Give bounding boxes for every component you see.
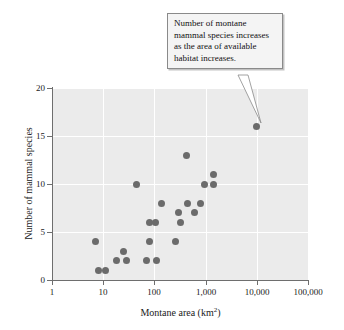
data-point bbox=[133, 181, 140, 188]
y-tick-label-0: 0 bbox=[41, 276, 46, 285]
data-point bbox=[210, 171, 217, 178]
data-point bbox=[253, 123, 260, 130]
data-point bbox=[95, 267, 102, 274]
annotation-line-4: habitat increases. bbox=[174, 53, 277, 65]
annotation-callout-box: Number of montane mammal species increas… bbox=[167, 13, 283, 69]
scatter-chart-figure: 20 15 10 5 0 1 10 100 1,000 10,000 100,0… bbox=[0, 0, 344, 330]
data-point bbox=[152, 219, 159, 226]
data-point bbox=[153, 257, 160, 264]
annotation-line-1: Number of montane bbox=[174, 18, 277, 30]
y-tick-5 bbox=[47, 232, 52, 233]
x-tick-1 bbox=[52, 280, 53, 285]
plot-area bbox=[52, 88, 308, 280]
data-point bbox=[184, 200, 191, 207]
x-tick-label-100: 100 bbox=[147, 288, 161, 297]
data-point bbox=[175, 209, 182, 216]
y-tick-20 bbox=[47, 88, 52, 89]
y-tick-label-10: 10 bbox=[36, 180, 45, 189]
x-tick-10 bbox=[103, 280, 104, 285]
y-tick-label-5: 5 bbox=[41, 228, 46, 237]
data-point bbox=[102, 267, 109, 274]
gridline-y-20 bbox=[52, 88, 308, 89]
y-tick-15 bbox=[47, 136, 52, 137]
x-tick-label-1000: 1,000 bbox=[196, 288, 216, 297]
y-axis-title: Number of mammal species bbox=[23, 109, 34, 259]
x-tick-label-100000: 100,000 bbox=[293, 288, 322, 297]
data-point bbox=[92, 238, 99, 245]
data-point bbox=[113, 257, 120, 264]
x-axis-title-prefix: Montane area (km bbox=[140, 307, 213, 318]
x-axis-title-suffix: ) bbox=[217, 307, 220, 318]
x-tick-1000 bbox=[206, 280, 207, 285]
data-point bbox=[146, 238, 153, 245]
data-point bbox=[120, 248, 127, 255]
gridline-x-10000 bbox=[257, 88, 258, 280]
y-tick-label-15: 15 bbox=[36, 132, 45, 141]
data-point bbox=[191, 209, 198, 216]
y-tick-10 bbox=[47, 184, 52, 185]
data-point bbox=[201, 181, 208, 188]
y-axis-line bbox=[52, 87, 53, 281]
x-tick-label-1: 1 bbox=[50, 288, 55, 297]
data-point bbox=[197, 200, 204, 207]
x-tick-100 bbox=[154, 280, 155, 285]
data-point bbox=[210, 181, 217, 188]
data-point bbox=[172, 238, 179, 245]
x-tick-10000 bbox=[257, 280, 258, 285]
annotation-line-2: mammal species increases bbox=[174, 30, 277, 42]
data-point bbox=[123, 257, 130, 264]
gridline-x-10 bbox=[103, 88, 104, 280]
gridline-y-5 bbox=[52, 232, 308, 233]
x-axis-line bbox=[52, 280, 309, 281]
gridline-y-15 bbox=[52, 136, 308, 137]
x-axis-title: Montane area (km2) bbox=[52, 305, 309, 318]
data-point bbox=[143, 257, 150, 264]
gridline-y-10 bbox=[52, 184, 308, 185]
x-tick-label-10: 10 bbox=[99, 288, 108, 297]
gridline-x-100 bbox=[154, 88, 155, 280]
y-tick-label-20: 20 bbox=[36, 84, 45, 93]
x-tick-label-10000: 10,000 bbox=[245, 288, 270, 297]
annotation-line-3: as the area of available bbox=[174, 41, 277, 53]
data-point bbox=[177, 219, 184, 226]
data-point bbox=[158, 200, 165, 207]
data-point bbox=[183, 152, 190, 159]
x-tick-100000 bbox=[308, 280, 309, 285]
